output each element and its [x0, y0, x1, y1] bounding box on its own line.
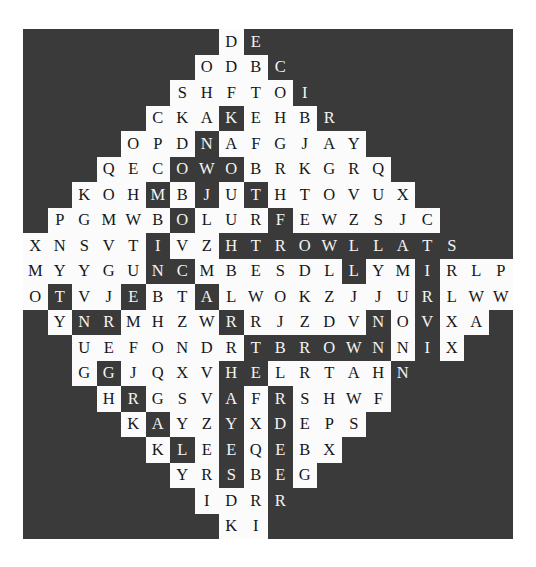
puzzle-cell-letter[interactable]: U: [219, 208, 244, 234]
puzzle-cell-letter[interactable]: U: [219, 182, 244, 208]
puzzle-cell-letter[interactable]: Z: [317, 284, 342, 310]
puzzle-cell-letter[interactable]: B: [170, 182, 195, 208]
puzzle-cell-letter[interactable]: R: [195, 463, 220, 489]
puzzle-cell-letter[interactable]: G: [72, 361, 97, 387]
puzzle-cell-letter[interactable]: V: [72, 284, 97, 310]
puzzle-cell-letter[interactable]: T: [244, 80, 269, 106]
puzzle-cell-letter[interactable]: B: [244, 463, 269, 489]
puzzle-cell-letter[interactable]: W: [464, 284, 489, 310]
puzzle-cell-letter[interactable]: E: [293, 412, 318, 438]
puzzle-cell-letter[interactable]: L: [317, 259, 342, 285]
puzzle-cell-letter[interactable]: L: [219, 284, 244, 310]
puzzle-cell-letter[interactable]: A: [464, 310, 489, 336]
puzzle-cell-letter[interactable]: C: [146, 157, 171, 183]
puzzle-cell-letter[interactable]: J: [342, 284, 367, 310]
puzzle-cell-letter[interactable]: N: [170, 335, 195, 361]
puzzle-cell-letter[interactable]: K: [170, 106, 195, 132]
puzzle-cell-letter[interactable]: Y: [170, 412, 195, 438]
puzzle-cell-letter[interactable]: G: [72, 208, 97, 234]
puzzle-cell-letter[interactable]: Y: [366, 259, 391, 285]
puzzle-cell-letter[interactable]: R: [121, 386, 146, 412]
puzzle-cell-letter[interactable]: W: [317, 233, 342, 259]
puzzle-cell-letter[interactable]: R: [219, 335, 244, 361]
puzzle-cell-letter[interactable]: F: [219, 80, 244, 106]
puzzle-cell-letter[interactable]: Y: [48, 259, 73, 285]
puzzle-cell-letter[interactable]: E: [244, 361, 269, 387]
puzzle-cell-letter[interactable]: A: [146, 412, 171, 438]
puzzle-cell-letter[interactable]: N: [366, 310, 391, 336]
puzzle-cell-letter[interactable]: T: [244, 182, 269, 208]
puzzle-cell-letter[interactable]: J: [195, 182, 220, 208]
puzzle-cell-letter[interactable]: M: [97, 208, 122, 234]
puzzle-cell-letter[interactable]: O: [195, 55, 220, 81]
puzzle-cell-letter[interactable]: K: [72, 182, 97, 208]
puzzle-cell-letter[interactable]: R: [268, 233, 293, 259]
puzzle-cell-letter[interactable]: E: [97, 335, 122, 361]
puzzle-cell-letter[interactable]: A: [195, 284, 220, 310]
puzzle-cell-letter[interactable]: O: [317, 335, 342, 361]
puzzle-cell-letter[interactable]: E: [268, 437, 293, 463]
puzzle-cell-letter[interactable]: N: [391, 361, 416, 387]
puzzle-cell-letter[interactable]: J: [97, 284, 122, 310]
puzzle-cell-letter[interactable]: Y: [72, 259, 97, 285]
puzzle-cell-letter[interactable]: V: [195, 361, 220, 387]
puzzle-cell-letter[interactable]: X: [317, 437, 342, 463]
puzzle-cell-letter[interactable]: T: [48, 284, 73, 310]
puzzle-cell-letter[interactable]: L: [440, 284, 465, 310]
puzzle-cell-letter[interactable]: M: [146, 182, 171, 208]
puzzle-cell-letter[interactable]: A: [219, 386, 244, 412]
puzzle-cell-letter[interactable]: K: [219, 106, 244, 132]
puzzle-cell-letter[interactable]: N: [72, 310, 97, 336]
puzzle-cell-letter[interactable]: D: [170, 131, 195, 157]
puzzle-cell-letter[interactable]: F: [121, 335, 146, 361]
puzzle-cell-letter[interactable]: Z: [195, 412, 220, 438]
puzzle-cell-letter[interactable]: I: [415, 335, 440, 361]
puzzle-cell-letter[interactable]: I: [293, 80, 318, 106]
puzzle-cell-letter[interactable]: F: [244, 131, 269, 157]
puzzle-cell-letter[interactable]: E: [195, 437, 220, 463]
puzzle-cell-letter[interactable]: H: [195, 80, 220, 106]
puzzle-cell-letter[interactable]: O: [219, 157, 244, 183]
puzzle-cell-letter[interactable]: R: [268, 157, 293, 183]
puzzle-cell-letter[interactable]: U: [391, 284, 416, 310]
puzzle-cell-letter[interactable]: D: [293, 259, 318, 285]
puzzle-cell-letter[interactable]: H: [268, 182, 293, 208]
puzzle-cell-letter[interactable]: B: [146, 208, 171, 234]
puzzle-cell-letter[interactable]: O: [170, 157, 195, 183]
puzzle-cell-letter[interactable]: X: [170, 361, 195, 387]
puzzle-cell-letter[interactable]: L: [268, 361, 293, 387]
puzzle-cell-letter[interactable]: B: [244, 55, 269, 81]
puzzle-cell-letter[interactable]: G: [268, 131, 293, 157]
puzzle-cell-letter[interactable]: E: [244, 29, 269, 55]
puzzle-cell-letter[interactable]: O: [97, 182, 122, 208]
puzzle-cell-letter[interactable]: Z: [195, 233, 220, 259]
puzzle-cell-letter[interactable]: W: [317, 208, 342, 234]
puzzle-cell-letter[interactable]: W: [342, 335, 367, 361]
puzzle-cell-letter[interactable]: E: [293, 208, 318, 234]
puzzle-cell-letter[interactable]: H: [366, 361, 391, 387]
puzzle-cell-letter[interactable]: I: [146, 233, 171, 259]
puzzle-cell-letter[interactable]: U: [72, 335, 97, 361]
puzzle-cell-letter[interactable]: X: [391, 182, 416, 208]
puzzle-cell-letter[interactable]: R: [440, 259, 465, 285]
puzzle-cell-letter[interactable]: Y: [219, 412, 244, 438]
puzzle-cell-letter[interactable]: T: [415, 233, 440, 259]
puzzle-cell-letter[interactable]: L: [342, 233, 367, 259]
puzzle-cell-letter[interactable]: P: [48, 208, 73, 234]
puzzle-cell-letter[interactable]: I: [244, 514, 269, 540]
puzzle-cell-letter[interactable]: Y: [48, 310, 73, 336]
puzzle-cell-letter[interactable]: S: [366, 208, 391, 234]
puzzle-cell-letter[interactable]: D: [219, 55, 244, 81]
puzzle-cell-letter[interactable]: P: [317, 412, 342, 438]
puzzle-cell-letter[interactable]: S: [268, 259, 293, 285]
puzzle-cell-letter[interactable]: Y: [342, 131, 367, 157]
puzzle-cell-letter[interactable]: W: [195, 157, 220, 183]
puzzle-cell-letter[interactable]: S: [72, 233, 97, 259]
puzzle-cell-letter[interactable]: E: [244, 106, 269, 132]
puzzle-cell-letter[interactable]: R: [293, 361, 318, 387]
puzzle-cell-letter[interactable]: A: [391, 233, 416, 259]
puzzle-cell-letter[interactable]: X: [440, 335, 465, 361]
puzzle-cell-letter[interactable]: S: [440, 233, 465, 259]
puzzle-cell-letter[interactable]: Z: [293, 310, 318, 336]
puzzle-cell-letter[interactable]: R: [268, 386, 293, 412]
